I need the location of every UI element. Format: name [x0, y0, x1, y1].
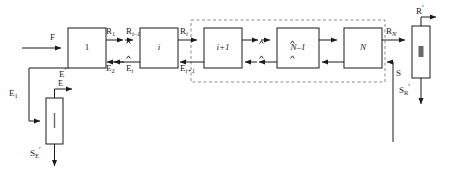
break-mark-top-1: [127, 41, 131, 44]
column-ii-packing-mark: [419, 46, 424, 57]
label-E2-base: E: [106, 63, 112, 73]
label-R-i-minus-1-sub: i–1: [132, 30, 140, 37]
label-S-R-prime: SR′: [399, 86, 410, 95]
label-E1-base: E: [9, 88, 15, 98]
diagram-canvas: 1 i i+1 N–1 N II I F R1 Ri–1 Ri RN E2 Ei…: [0, 0, 452, 173]
break-mark-bot-2: [260, 56, 264, 59]
label-R1: R1: [106, 27, 115, 36]
label-E-top-column-I: E: [58, 80, 63, 88]
label-Ri: Ri: [180, 27, 188, 36]
arrow-R-prime-out: [421, 17, 436, 26]
label-Ei-sub: i: [132, 67, 134, 74]
label-E-i-plus-1-base: E: [180, 63, 186, 73]
break-mark-top-2: [260, 41, 264, 44]
label-Ei: Ei: [126, 64, 133, 73]
box-label-stage-i: i: [140, 43, 178, 52]
label-S-R-prime-sup: ′: [408, 83, 410, 92]
connector-lines: [22, 17, 436, 166]
label-E-prime: E′: [59, 70, 66, 79]
box-label-stage-i-plus-1: i+1: [204, 43, 242, 52]
label-E-i-plus-1-sub: i+1: [186, 67, 195, 74]
label-E-prime-base: E: [59, 69, 65, 79]
label-E2: E2: [106, 64, 115, 73]
label-RN-sub: N: [392, 30, 396, 37]
label-E1: E1: [9, 89, 18, 98]
label-E1-sub: 1: [15, 92, 18, 99]
arrow-E-out-top-column-I: [55, 89, 73, 98]
label-E-prime-sup: ′: [65, 67, 67, 76]
label-R-prime: R′: [416, 7, 424, 16]
label-R1-sub: 1: [112, 30, 115, 37]
box-label-stage-n-minus-1: N–1: [277, 43, 319, 52]
break-mark-bot-1: [127, 56, 131, 59]
label-S-feed: S: [396, 69, 401, 78]
diagram-svg: [0, 0, 452, 173]
label-S-E-prime-sup: ′: [39, 146, 41, 155]
label-R-i-minus-1: Ri–1: [126, 27, 140, 36]
label-S-E-prime: SE′: [30, 149, 41, 158]
label-Ri-sub: i: [186, 30, 188, 37]
label-RN: RN: [386, 27, 396, 36]
label-E2-sub: 2: [112, 67, 115, 74]
label-E-i-plus-1: Ei+1: [180, 64, 195, 73]
label-R-prime-sup: ′: [422, 4, 424, 13]
box-label-stage-1: 1: [68, 43, 106, 52]
label-Ei-base: E: [126, 63, 132, 73]
box-label-stage-n: N: [344, 43, 382, 52]
label-feed-F: F: [50, 33, 55, 42]
